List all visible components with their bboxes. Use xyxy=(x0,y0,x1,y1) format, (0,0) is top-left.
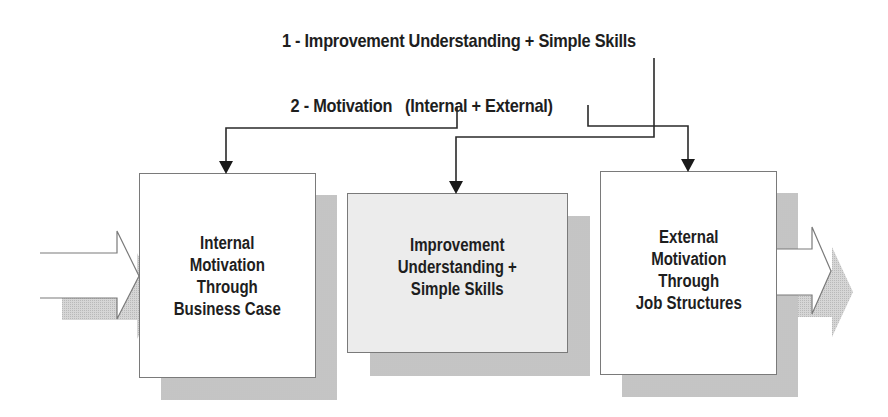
arrowhead-down-icon xyxy=(681,159,695,172)
connector-motivation-to-external xyxy=(588,105,688,160)
connector-layer xyxy=(0,0,888,417)
connector-motivation-to-internal xyxy=(226,106,457,162)
arrowhead-down-icon xyxy=(449,181,463,194)
arrowhead-down-icon xyxy=(219,161,233,174)
connector-improvement-to-middle xyxy=(456,58,654,182)
